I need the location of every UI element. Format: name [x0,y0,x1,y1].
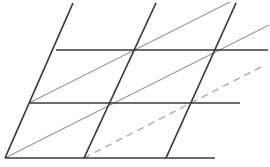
line-diagram-canvas [0,0,270,167]
figure-background [0,0,270,167]
line-diagram-figure [0,0,270,167]
